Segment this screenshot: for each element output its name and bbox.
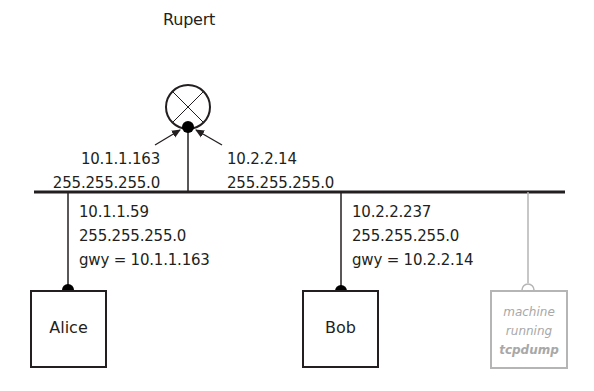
network-diagram: Rupert 10.1.1.163 255.255.255.0 10.2.2.1… <box>0 0 594 391</box>
arrow-left-interface <box>155 130 180 145</box>
bob-label: Bob <box>304 318 377 337</box>
alice-gateway: gwy = 10.1.1.163 <box>79 248 210 272</box>
alice-ip: 10.1.1.59 <box>79 200 149 224</box>
router-right-mask: 255.255.255.0 <box>227 171 334 195</box>
router-name: Rupert <box>163 8 215 32</box>
host-alice: Alice <box>30 290 107 368</box>
router-icon <box>166 85 210 133</box>
sniffer-line3: tcpdump <box>492 342 566 359</box>
router-right-ip: 10.2.2.14 <box>227 147 297 171</box>
sniffer-machine: machine running tcpdump <box>490 290 568 369</box>
sniffer-line1: machine <box>492 304 566 321</box>
host-bob: Bob <box>302 290 379 368</box>
arrow-right-interface <box>196 130 222 145</box>
alice-label: Alice <box>32 318 105 337</box>
router-left-mask: 255.255.255.0 <box>30 171 160 195</box>
alice-mask: 255.255.255.0 <box>79 224 186 248</box>
bob-mask: 255.255.255.0 <box>352 224 459 248</box>
bob-ip: 10.2.2.237 <box>352 200 431 224</box>
bob-gateway: gwy = 10.2.2.14 <box>352 248 473 272</box>
router-left-ip: 10.1.1.163 <box>30 147 160 171</box>
sniffer-line2: running <box>492 323 566 340</box>
